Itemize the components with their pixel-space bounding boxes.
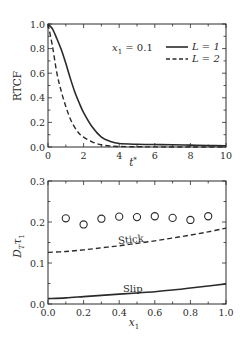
x-axis-label: t* bbox=[129, 156, 137, 168]
y-tick-label: 0.0 bbox=[30, 299, 45, 310]
y-tick-label: 1.0 bbox=[30, 19, 45, 30]
y-axis-label: DTτ1 bbox=[11, 234, 26, 258]
y-tick-label: 0.2 bbox=[30, 117, 45, 128]
data-point-circle bbox=[62, 215, 69, 222]
slip-label: Slip bbox=[123, 283, 143, 294]
x-tick-label: 6 bbox=[152, 150, 158, 161]
x-tick-label: 4 bbox=[116, 150, 122, 161]
y-tick-label: 0.3 bbox=[30, 176, 45, 187]
legend: L = 1 L = 2 bbox=[166, 41, 220, 64]
stick-label: Stick bbox=[117, 232, 145, 246]
x-tick-label: 0.4 bbox=[112, 307, 127, 318]
legend-l2-label: L = 2 bbox=[191, 53, 220, 64]
data-point-circle bbox=[205, 213, 212, 220]
y-tick-label: 0.2 bbox=[30, 217, 45, 228]
tick-labels: 0.00.20.40.60.81.00.00.10.20.3 bbox=[30, 176, 234, 319]
x-tick-label: 10 bbox=[220, 150, 232, 161]
y-tick-label: 0.8 bbox=[30, 43, 45, 54]
x-tick-label: 0.2 bbox=[76, 307, 91, 318]
rtcf-chart: 02468100.00.20.40.60.81.0 RTCF t* x1 = 0… bbox=[11, 19, 232, 169]
data-point-circle bbox=[116, 213, 123, 220]
x-tick-label: 0.6 bbox=[147, 307, 162, 318]
data-point-circle bbox=[133, 213, 140, 220]
x-tick-label: 8 bbox=[187, 150, 193, 161]
y-tick-label: 0.4 bbox=[30, 92, 45, 103]
x-tick-label: 2 bbox=[81, 150, 87, 161]
diffusion-chart: 0.00.20.40.60.81.00.00.10.20.3 DTτ1 x1 S… bbox=[11, 176, 234, 332]
annotation-x1: x1 = 0.1 bbox=[112, 42, 153, 56]
x-axis-label: x1 bbox=[129, 316, 139, 331]
y-tick-label: 0.1 bbox=[30, 258, 45, 269]
x-tick-label: 1.0 bbox=[218, 307, 233, 318]
legend-l1-label: L = 1 bbox=[191, 41, 220, 52]
data-point-circle bbox=[151, 213, 158, 220]
x-tick-label: 0 bbox=[45, 150, 51, 161]
data-point-circle bbox=[169, 214, 176, 221]
y-tick-label: 0.6 bbox=[30, 68, 45, 79]
figure: 02468100.00.20.40.60.81.0 RTCF t* x1 = 0… bbox=[0, 0, 246, 338]
x-tick-label: 0.8 bbox=[183, 307, 198, 318]
data-point-circle bbox=[98, 215, 105, 222]
data-point-circle bbox=[187, 216, 194, 223]
y-axis-label: RTCF bbox=[11, 71, 23, 101]
y-tick-label: 0.0 bbox=[30, 142, 45, 153]
data-point-circle bbox=[80, 221, 87, 228]
